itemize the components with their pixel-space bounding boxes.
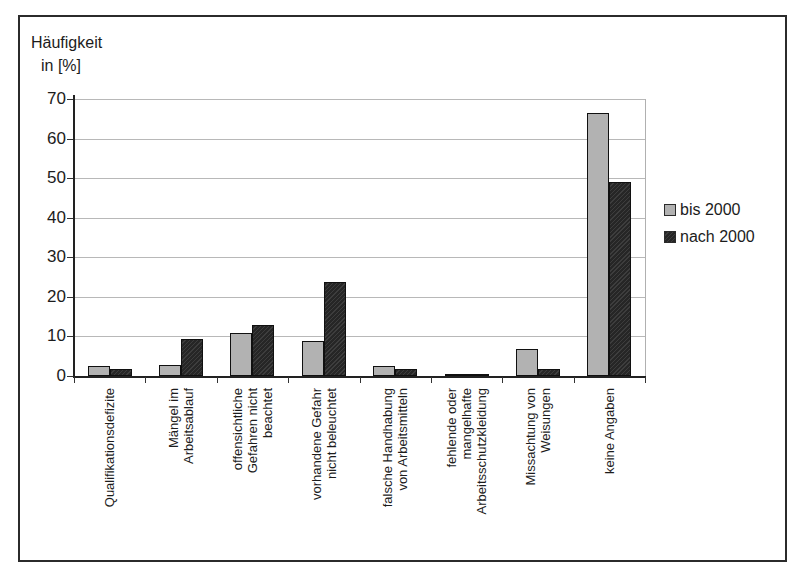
legend-swatch-bis-2000 xyxy=(664,204,676,216)
legend-item-nach-2000: nach 2000 xyxy=(664,228,755,246)
x-tick-1 xyxy=(145,377,146,383)
bar-bis-2000-cat1 xyxy=(88,366,110,376)
y-tick-label-50: 50 xyxy=(14,168,66,188)
category-label-7: Missachtung vonWeisungen xyxy=(523,388,553,563)
category-label-8: keine Angaben xyxy=(602,388,617,563)
category-label-6: fehlende odermangelhafteArbeitsschutzkle… xyxy=(444,388,489,563)
scanned-chart-figure: Häufigkeit in [%] 010203040506070Qualifi… xyxy=(0,0,796,576)
gridline-60 xyxy=(74,139,645,140)
bar-nach-2000-cat2 xyxy=(181,339,203,376)
category-label-3: offensichtlicheGefahren nichtbeachtet xyxy=(230,388,275,563)
y-tick-20 xyxy=(67,297,73,298)
x-tick-7 xyxy=(574,377,575,383)
legend-item-bis-2000: bis 2000 xyxy=(664,201,755,219)
y-tick-0 xyxy=(67,376,73,377)
y-axis-title-line1: Häufigkeit xyxy=(31,34,102,52)
gridline-30 xyxy=(74,257,645,258)
y-tick-label-30: 30 xyxy=(14,247,66,267)
gridline-20 xyxy=(74,297,645,298)
bar-bis-2000-cat3 xyxy=(230,333,252,376)
y-axis-line xyxy=(73,95,75,377)
y-tick-50 xyxy=(67,178,73,179)
bar-nach-2000-cat4 xyxy=(324,282,346,376)
y-tick-40 xyxy=(67,218,73,219)
legend-swatch-nach-2000 xyxy=(664,231,676,243)
category-label-4: vorhandene Gefahrnicht beleuchtet xyxy=(309,388,339,563)
y-tick-30 xyxy=(67,257,73,258)
y-tick-label-20: 20 xyxy=(14,287,66,307)
gridline-70 xyxy=(74,99,645,100)
bar-bis-2000-cat2 xyxy=(159,365,181,376)
bar-bis-2000-cat7 xyxy=(516,349,538,376)
y-axis-title-line2: in [%] xyxy=(41,57,81,75)
y-tick-10 xyxy=(67,336,73,337)
y-tick-label-70: 70 xyxy=(14,89,66,109)
y-tick-label-40: 40 xyxy=(14,208,66,228)
category-label-2: Mängel imArbeitsablauf xyxy=(166,388,196,563)
gridline-50 xyxy=(74,178,645,179)
bar-bis-2000-cat5 xyxy=(373,366,395,376)
y-tick-label-0: 0 xyxy=(14,366,66,386)
y-tick-70 xyxy=(67,99,73,100)
y-tick-label-10: 10 xyxy=(14,326,66,346)
bar-nach-2000-cat6 xyxy=(467,374,489,376)
x-tick-0 xyxy=(74,377,75,383)
plot-right-border xyxy=(645,99,646,376)
y-tick-60 xyxy=(67,139,73,140)
bar-nach-2000-cat7 xyxy=(538,369,560,376)
x-tick-3 xyxy=(288,377,289,383)
bar-nach-2000-cat1 xyxy=(110,369,132,376)
x-tick-4 xyxy=(360,377,361,383)
gridline-10 xyxy=(74,336,645,337)
bar-nach-2000-cat8 xyxy=(609,182,631,376)
x-tick-8 xyxy=(645,377,646,383)
bar-nach-2000-cat3 xyxy=(252,325,274,376)
x-tick-2 xyxy=(217,377,218,383)
x-tick-5 xyxy=(431,377,432,383)
category-label-1: Qualifikationsdefizite xyxy=(102,388,117,563)
gridline-40 xyxy=(74,218,645,219)
bar-bis-2000-cat8 xyxy=(587,113,609,376)
bar-nach-2000-cat5 xyxy=(395,369,417,376)
legend-label-nach-2000: nach 2000 xyxy=(680,228,755,246)
legend-label-bis-2000: bis 2000 xyxy=(680,201,741,219)
category-label-5: falsche Handhabungvon Arbeitsmitteln xyxy=(380,388,410,563)
legend: bis 2000 nach 2000 xyxy=(664,201,755,255)
bar-bis-2000-cat4 xyxy=(302,341,324,376)
bar-bis-2000-cat6 xyxy=(445,374,467,376)
y-tick-label-60: 60 xyxy=(14,129,66,149)
x-tick-6 xyxy=(502,377,503,383)
